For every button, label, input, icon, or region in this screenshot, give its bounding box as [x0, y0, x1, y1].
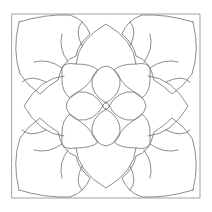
frame-border	[12, 14, 200, 198]
mandala-drawing	[0, 0, 212, 212]
coloring-page-canvas	[0, 0, 212, 212]
inner-lobes	[62, 64, 150, 149]
inner-petals	[66, 66, 146, 146]
tendrils	[22, 22, 190, 190]
middle-petals	[24, 24, 188, 188]
outer-petals	[16, 15, 197, 197]
